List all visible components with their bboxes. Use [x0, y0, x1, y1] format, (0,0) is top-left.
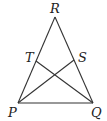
label-q: Q	[91, 105, 102, 120]
label-t: T	[25, 50, 35, 65]
label-p: P	[7, 105, 17, 120]
label-s: S	[78, 50, 87, 65]
label-r: R	[49, 1, 60, 16]
triangle-diagram: R T S P Q	[0, 0, 107, 121]
segment-ps	[18, 60, 74, 103]
side-pr	[18, 17, 55, 103]
